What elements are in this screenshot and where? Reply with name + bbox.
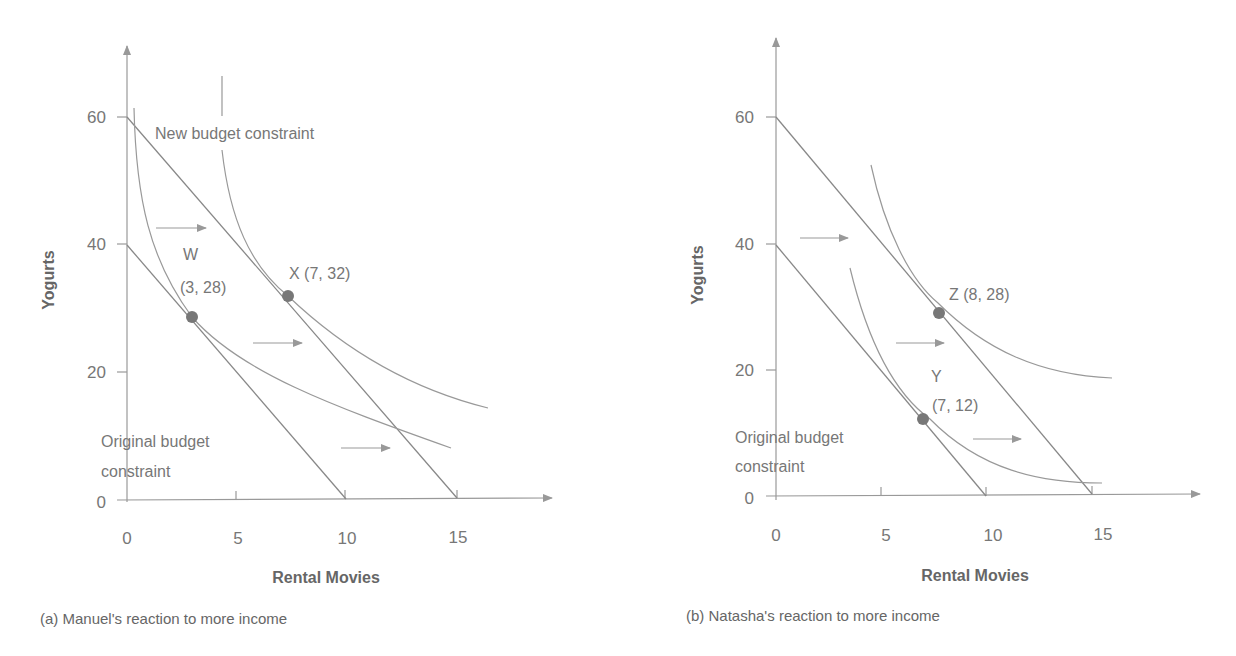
point-x-label: X (7, 32) (289, 265, 350, 282)
point-w-coords: (3, 28) (180, 279, 226, 296)
new-budget-label: New budget constraint (155, 125, 315, 142)
original-budget-label-line2: constraint (101, 463, 171, 480)
original-budget-label-line2: constraint (735, 458, 805, 475)
original-budget-line (776, 245, 986, 496)
x-tick-5: 5 (881, 526, 890, 545)
caption-a: (a) Manuel's reaction to more income (40, 610, 287, 627)
y-tick-20: 20 (735, 361, 754, 380)
original-budget-label-line1: Original budget (101, 433, 210, 450)
x-tick-0: 0 (771, 526, 780, 545)
y-tick-40: 40 (735, 235, 754, 254)
x-axis (766, 494, 1200, 496)
point-w-label: W (183, 246, 199, 263)
y-tick-40: 40 (87, 235, 106, 254)
y-axis-label: Yogurts (689, 245, 706, 304)
x-tick-5: 5 (233, 529, 242, 548)
y-tick-60: 60 (87, 108, 106, 127)
x-axis (117, 498, 552, 500)
y-axis-label: Yogurts (40, 250, 57, 309)
point-x (282, 290, 294, 302)
point-y (917, 413, 929, 425)
x-tick-15: 15 (1094, 525, 1113, 544)
figure: 60 40 20 0 0 5 10 15 Yogurts Rental Movi… (0, 0, 1236, 656)
x-tick-15: 15 (449, 528, 468, 547)
point-z (933, 307, 945, 319)
y-tick-0: 0 (97, 493, 106, 512)
point-w (186, 311, 198, 323)
indifference-curve-new (871, 165, 1112, 378)
point-y-coords: (7, 12) (932, 397, 978, 414)
x-axis-label: Rental Movies (921, 567, 1029, 584)
y-tick-0: 0 (745, 489, 754, 508)
point-z-label: Z (8, 28) (949, 286, 1009, 303)
x-tick-0: 0 (122, 529, 131, 548)
x-tick-10: 10 (984, 526, 1003, 545)
original-budget-label-line1: Original budget (735, 429, 844, 446)
y-tick-20: 20 (87, 363, 106, 382)
point-y-label: Y (931, 368, 942, 385)
chart-panel-a: 60 40 20 0 0 5 10 15 Yogurts Rental Movi… (40, 46, 552, 627)
x-axis-label: Rental Movies (272, 569, 380, 586)
chart-panel-b: 60 40 20 0 0 5 10 15 Yogurts Rental Movi… (686, 38, 1200, 624)
x-tick-10: 10 (338, 529, 357, 548)
caption-b: (b) Natasha's reaction to more income (686, 607, 940, 624)
original-budget-line (127, 245, 346, 499)
y-tick-60: 60 (735, 108, 754, 127)
